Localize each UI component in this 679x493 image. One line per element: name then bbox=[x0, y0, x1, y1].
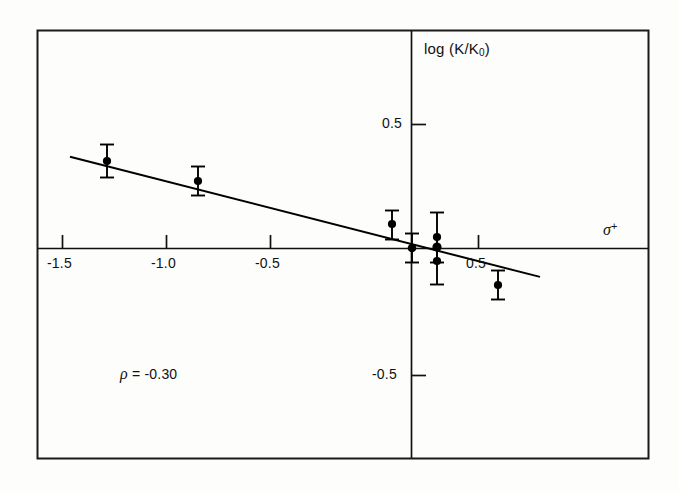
data-point-7 bbox=[430, 248, 444, 285]
data-point-8 bbox=[491, 270, 505, 300]
data-series bbox=[100, 144, 505, 300]
data-point-1 bbox=[100, 144, 114, 178]
y-axis-title: log (K/K0) bbox=[424, 40, 490, 58]
x-tick-label-neg1-0: -1.0 bbox=[151, 255, 176, 271]
y-tick-label-0-5: 0.5 bbox=[382, 115, 402, 131]
sigma-plus-superscript: + bbox=[611, 220, 618, 232]
plot-canvas bbox=[0, 0, 679, 493]
rho-annotation: ρ = -0.30 bbox=[120, 365, 177, 383]
hammett-plot-figure: log (K/K0) σ+ -1.5 -1.0 -0.5 0.5 0.5 -0.… bbox=[0, 0, 679, 493]
x-tick-label-0-5: 0.5 bbox=[466, 255, 486, 271]
rho-value: = -0.30 bbox=[132, 366, 177, 382]
x-tick-label-neg0-5: -0.5 bbox=[255, 255, 280, 271]
y-axis-title-closeparen: ) bbox=[485, 40, 490, 57]
y-axis-title-text: log (K/K bbox=[424, 40, 479, 57]
x-tick-label-neg1-5: -1.5 bbox=[47, 255, 72, 271]
x-axis-title: σ+ bbox=[603, 220, 618, 239]
rho-symbol: ρ bbox=[120, 365, 128, 382]
plot-frame bbox=[38, 31, 649, 459]
data-point-3 bbox=[385, 210, 399, 240]
y-tick-label-neg0-5: -0.5 bbox=[372, 366, 397, 382]
sigma-symbol: σ bbox=[603, 221, 611, 238]
